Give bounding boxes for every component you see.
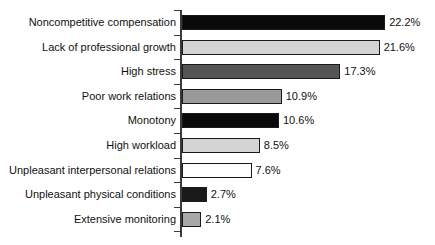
bar-value-label: 2.1% xyxy=(205,212,230,227)
bar-row: Unpleasant interpersonal relations7.6% xyxy=(0,163,435,188)
plot-area: Noncompetitive compensation22.2%Lack of … xyxy=(0,0,435,245)
axis-tick xyxy=(174,158,181,159)
bar-value-label: 8.5% xyxy=(264,138,289,153)
bar xyxy=(182,15,385,30)
category-label: High stress xyxy=(0,64,176,79)
bar-value-label: 2.7% xyxy=(211,187,236,202)
category-label: Poor work relations xyxy=(0,89,176,104)
category-label: Unpleasant physical conditions xyxy=(0,187,176,202)
bar-row: Lack of professional growth21.6% xyxy=(0,40,435,65)
axis-tick xyxy=(174,59,181,60)
bar xyxy=(182,212,201,227)
bar-row: Extensive monitoring2.1% xyxy=(0,212,435,237)
bar-value-label: 10.6% xyxy=(283,113,314,128)
category-label: Monotony xyxy=(0,113,176,128)
bar xyxy=(182,64,340,79)
bar-row: High workload8.5% xyxy=(0,138,435,163)
bar-value-label: 10.9% xyxy=(286,89,317,104)
bar xyxy=(182,163,252,178)
axis-tick xyxy=(174,35,181,36)
category-label: Unpleasant interpersonal relations xyxy=(0,163,176,178)
category-label: Extensive monitoring xyxy=(0,212,176,227)
bar xyxy=(182,187,207,202)
axis-tick xyxy=(174,10,181,11)
bar xyxy=(182,40,380,55)
bar-value-label: 7.6% xyxy=(256,163,281,178)
bar-chart: Noncompetitive compensation22.2%Lack of … xyxy=(0,0,435,245)
category-label: Noncompetitive compensation xyxy=(0,15,176,30)
category-label: High workload xyxy=(0,138,176,153)
category-label: Lack of professional growth xyxy=(0,40,176,55)
bar-row: Monotony10.6% xyxy=(0,113,435,138)
bar-value-label: 22.2% xyxy=(389,15,420,30)
axis-tick xyxy=(174,207,181,208)
axis-tick xyxy=(174,231,181,232)
axis-tick xyxy=(174,84,181,85)
axis-tick xyxy=(174,133,181,134)
bar-row: Unpleasant physical conditions2.7% xyxy=(0,187,435,212)
axis-tick xyxy=(174,108,181,109)
bar xyxy=(182,89,282,104)
bar-value-label: 21.6% xyxy=(384,40,415,55)
bar-row: High stress17.3% xyxy=(0,64,435,89)
bar xyxy=(182,138,260,153)
bar-value-label: 17.3% xyxy=(344,64,375,79)
bar-row: Poor work relations10.9% xyxy=(0,89,435,114)
bar xyxy=(182,113,279,128)
axis-tick xyxy=(174,182,181,183)
bar-row: Noncompetitive compensation22.2% xyxy=(0,15,435,40)
